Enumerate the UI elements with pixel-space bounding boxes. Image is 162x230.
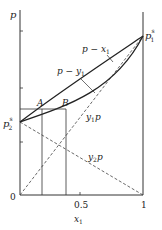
- point-A-label: A: [36, 98, 44, 108]
- p2s-label: ps2: [3, 115, 13, 131]
- x-tick-label-0: 0: [10, 192, 16, 202]
- y-axis-label: p: [10, 9, 17, 20]
- y2p-line: [20, 122, 143, 195]
- x-axis-label: x1: [74, 214, 83, 225]
- pxy-diagram: p ps1 ps2 A B p − x1 p − y1 y1p y2p 0 0.…: [0, 0, 162, 230]
- p-y1-label: p − y1: [57, 66, 85, 77]
- leader-p-x1: [107, 55, 113, 62]
- y2p-label: y2p: [87, 152, 103, 163]
- p-x1-label: p − x1: [82, 44, 110, 55]
- leader-p-y1: [80, 78, 95, 93]
- x-tick-label-1: 1: [141, 200, 147, 210]
- p1s-label: ps1: [145, 27, 155, 43]
- y1p-label: y1p: [85, 112, 101, 123]
- point-B-label: B: [61, 98, 69, 108]
- x-tick-label-0.5: 0.5: [74, 200, 89, 210]
